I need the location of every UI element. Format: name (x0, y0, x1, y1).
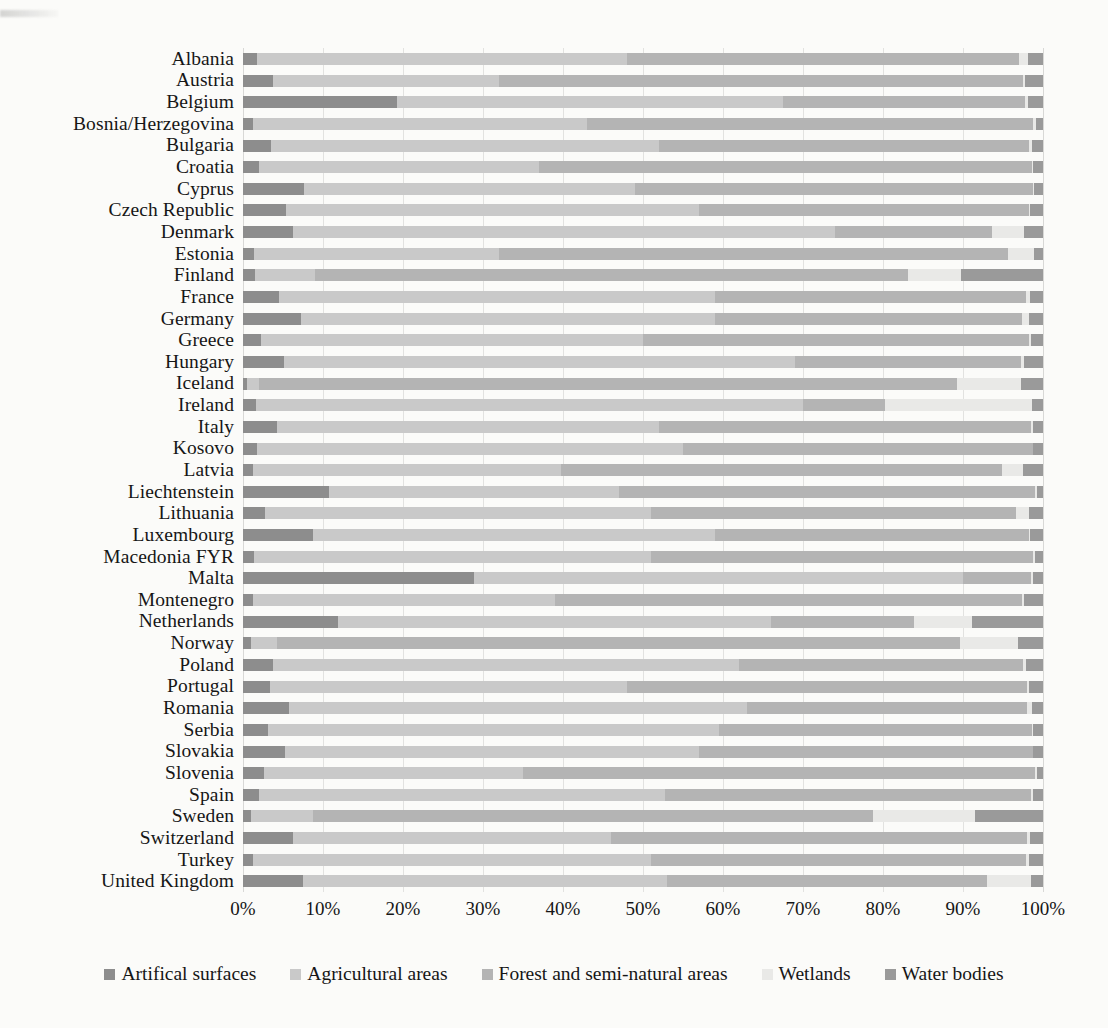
stacked-bar[interactable] (243, 269, 1043, 281)
bar-segment-forest-and-semi-natural-areas (315, 269, 908, 281)
stacked-bar[interactable] (243, 724, 1043, 736)
category-label: Turkey (178, 849, 234, 869)
bar-segment-agricultural-areas (254, 551, 651, 563)
gridline (1043, 48, 1044, 892)
bar-row: Cyprus (243, 178, 1043, 200)
stacked-bar[interactable] (243, 637, 1043, 649)
stacked-bar[interactable] (243, 681, 1043, 693)
stacked-bar[interactable] (243, 75, 1043, 87)
bar-segment-artifical-surfaces (243, 53, 257, 65)
bar-segment-artifical-surfaces (243, 204, 286, 216)
bar-row: Macedonia FYR (243, 546, 1043, 568)
x-axis-tick-label: 40% (546, 898, 581, 920)
bar-segment-agricultural-areas (338, 616, 771, 628)
legend-item[interactable]: Water bodies (885, 963, 1004, 985)
stacked-bar[interactable] (243, 746, 1043, 758)
bar-segment-forest-and-semi-natural-areas (627, 681, 1027, 693)
stacked-bar[interactable] (243, 226, 1043, 238)
legend-swatch-icon (885, 969, 896, 980)
stacked-bar[interactable] (243, 616, 1043, 628)
stacked-bar[interactable] (243, 443, 1043, 455)
bar-segment-forest-and-semi-natural-areas (611, 832, 1027, 844)
stacked-bar[interactable] (243, 96, 1043, 108)
bar-row: Finland (243, 264, 1043, 286)
stacked-bar[interactable] (243, 529, 1043, 541)
bar-row: Turkey (243, 849, 1043, 871)
stacked-bar[interactable] (243, 291, 1043, 303)
bar-segment-forest-and-semi-natural-areas (659, 421, 1031, 433)
bar-segment-agricultural-areas (279, 291, 715, 303)
bar-segment-water-bodies (1029, 313, 1043, 325)
bar-segment-artifical-surfaces (243, 854, 253, 866)
stacked-bar[interactable] (243, 378, 1043, 390)
bar-row: Spain (243, 784, 1043, 806)
stacked-bar[interactable] (243, 832, 1043, 844)
bar-row: Slovakia (243, 741, 1043, 763)
stacked-bar[interactable] (243, 572, 1043, 584)
category-label: Bulgaria (166, 135, 234, 155)
bar-row: Belgium (243, 91, 1043, 113)
stacked-bar[interactable] (243, 334, 1043, 346)
stacked-bar[interactable] (243, 161, 1043, 173)
bar-segment-agricultural-areas (253, 594, 555, 606)
stacked-bar[interactable] (243, 594, 1043, 606)
category-label: Greece (178, 330, 234, 350)
x-axis: 0%10%20%30%40%50%60%70%80%90%100% (243, 898, 1043, 926)
bar-segment-agricultural-areas (284, 356, 795, 368)
bar-row: Kosovo (243, 438, 1043, 460)
stacked-bar[interactable] (243, 854, 1043, 866)
bar-segment-artifical-surfaces (243, 291, 279, 303)
stacked-bar[interactable] (243, 356, 1043, 368)
legend-item[interactable]: Forest and semi-natural areas (482, 963, 728, 985)
category-label: Italy (198, 417, 234, 437)
stacked-bar[interactable] (243, 486, 1043, 498)
bar-row: Denmark (243, 221, 1043, 243)
bar-segment-wetlands (960, 637, 1018, 649)
stacked-bar[interactable] (243, 702, 1043, 714)
stacked-bar[interactable] (243, 421, 1043, 433)
bar-row: Hungary (243, 351, 1043, 373)
stacked-bar[interactable] (243, 551, 1043, 563)
bar-row: Latvia (243, 459, 1043, 481)
bar-segment-artifical-surfaces (243, 313, 301, 325)
stacked-bar[interactable] (243, 183, 1043, 195)
bar-segment-forest-and-semi-natural-areas (699, 204, 1029, 216)
bar-segment-artifical-surfaces (243, 616, 338, 628)
stacked-bar[interactable] (243, 118, 1043, 130)
bar-segment-forest-and-semi-natural-areas (795, 356, 1021, 368)
stacked-bar[interactable] (243, 53, 1043, 65)
bar-row: Iceland (243, 373, 1043, 395)
category-label: Macedonia FYR (103, 546, 234, 566)
stacked-bar[interactable] (243, 248, 1043, 260)
legend-item[interactable]: Artifical surfaces (104, 963, 256, 985)
bar-segment-forest-and-semi-natural-areas (259, 378, 957, 390)
stacked-bar[interactable] (243, 659, 1043, 671)
category-label: Czech Republic (109, 200, 234, 220)
bar-segment-agricultural-areas (257, 53, 627, 65)
stacked-bar[interactable] (243, 313, 1043, 325)
stacked-bar[interactable] (243, 204, 1043, 216)
stacked-bar[interactable] (243, 767, 1043, 779)
legend-label: Forest and semi-natural areas (499, 963, 728, 985)
legend-swatch-icon (104, 969, 115, 980)
bar-segment-water-bodies (961, 269, 1043, 281)
legend-item[interactable]: Wetlands (762, 963, 851, 985)
category-label: Kosovo (173, 438, 234, 458)
legend-label: Artifical surfaces (121, 963, 256, 985)
stacked-bar[interactable] (243, 464, 1043, 476)
bar-segment-artifical-surfaces (243, 421, 277, 433)
stacked-bar[interactable] (243, 810, 1043, 822)
stacked-bar[interactable] (243, 399, 1043, 411)
bar-segment-artifical-surfaces (243, 399, 256, 411)
bar-segment-artifical-surfaces (243, 529, 313, 541)
stacked-bar[interactable] (243, 875, 1043, 887)
bar-segment-forest-and-semi-natural-areas (715, 529, 1029, 541)
bar-segment-agricultural-areas (253, 854, 651, 866)
stacked-bar[interactable] (243, 507, 1043, 519)
stacked-bar[interactable] (243, 140, 1043, 152)
bar-segment-wetlands (1002, 464, 1023, 476)
stacked-bar[interactable] (243, 789, 1043, 801)
bar-segment-agricultural-areas (256, 399, 803, 411)
bar-segment-water-bodies (1032, 702, 1043, 714)
legend-item[interactable]: Agricultural areas (290, 963, 447, 985)
